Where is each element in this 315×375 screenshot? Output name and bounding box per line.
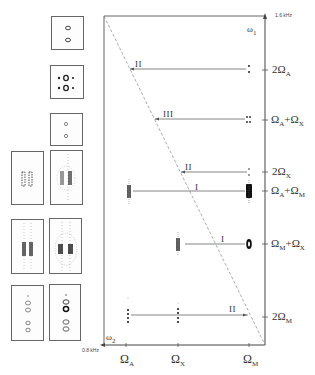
column-label-A: ΩA [120,352,134,368]
row-label-AX: ΩA+ΩX [271,114,304,128]
row-label-2X: 2ΩX [272,166,291,180]
connection-label: III [163,109,174,119]
omega1-axis-label: ω1 [247,25,256,37]
row-label-2M: 2ΩM [272,311,292,325]
bottom-scale-label: 0.8 kHz [82,348,99,353]
connection-label: II [185,162,192,172]
row-label-MX: ΩM+ΩX [271,238,305,252]
connection-label: I [195,182,199,192]
row-label-AM: ΩA+ΩM [271,185,305,199]
connection-label: I [221,234,225,244]
top-scale-label: 1.6 kHz [275,13,292,18]
correlation-diagram [0,0,315,375]
connection-label: II [229,304,236,314]
omega2-axis-label: ω2 [106,333,115,345]
row-label-2A: 2ΩA [272,64,291,78]
column-label-X: ΩX [171,352,185,368]
figure: II III II I I II 1.6 kHz ω1 ω2 0.8 kHz 2… [0,0,315,375]
arrow-left-icon [100,343,105,347]
column-label-M: ΩM [243,352,258,368]
connection-label: II [135,59,142,69]
